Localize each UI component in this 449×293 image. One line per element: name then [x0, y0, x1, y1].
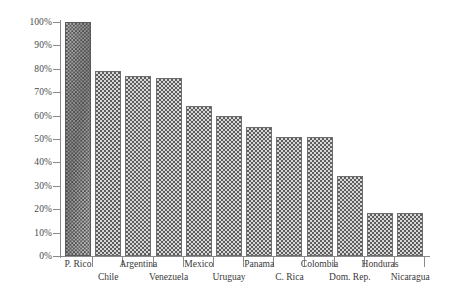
bar	[307, 137, 333, 256]
y-axis-tick-label: 70%	[0, 87, 52, 97]
y-axis-tick-mark	[53, 92, 61, 93]
bar	[397, 213, 423, 256]
x-axis-tick-label: Chile	[98, 272, 119, 283]
x-axis-line	[61, 256, 430, 257]
y-axis-tick-mark	[53, 139, 61, 140]
bar	[186, 106, 212, 256]
x-axis-tick-label: P. Rico	[65, 259, 92, 270]
bar	[156, 78, 182, 256]
x-axis-tick-label: Nicaragua	[391, 272, 430, 283]
bar	[65, 22, 91, 256]
x-axis-tick-label: Argentina	[119, 259, 157, 270]
y-axis-tick-label: 0%	[0, 251, 52, 261]
x-axis-tick-label: Panama	[244, 259, 274, 270]
y-axis-tick-label: 90%	[0, 40, 52, 50]
y-axis-tick-label: 20%	[0, 204, 52, 214]
y-axis-tick-mark	[53, 69, 61, 70]
y-axis-tick-label: 60%	[0, 111, 52, 121]
y-axis-tick-label: 30%	[0, 181, 52, 191]
y-axis-tick-label: 50%	[0, 134, 52, 144]
y-axis-tick-mark	[53, 162, 61, 163]
y-axis-tick-mark	[53, 116, 61, 117]
x-axis-tick-label: Mexico	[184, 259, 213, 270]
y-axis-tick-mark	[53, 256, 61, 257]
x-axis-tick-label: C. Rica	[275, 272, 304, 283]
y-axis-tick-label: 80%	[0, 64, 52, 74]
bar	[367, 213, 393, 256]
y-axis-tick-label: 40%	[0, 157, 52, 167]
x-axis-tick-label: Uruguay	[212, 272, 245, 283]
bar	[95, 71, 121, 256]
plot-area	[61, 22, 440, 256]
bar	[276, 137, 302, 256]
y-axis-tick-mark	[53, 22, 61, 23]
x-axis-tick-label: Dom. Rep.	[329, 272, 370, 283]
x-axis-separator	[424, 257, 425, 267]
y-axis-tick-mark	[53, 233, 61, 234]
y-axis-tick-label: 100%	[0, 17, 52, 27]
x-axis-tick-label: Venezuela	[149, 272, 188, 283]
bar-chart-figure: 100%90%80%70%60%50%40%30%20%10%0% P. Ric…	[0, 0, 449, 293]
y-axis-tick-mark	[53, 45, 61, 46]
bar	[125, 76, 151, 256]
x-axis-tick-label: Colombia	[301, 259, 338, 270]
y-axis-tick-mark	[53, 186, 61, 187]
bar	[216, 116, 242, 256]
y-axis-tick-label: 10%	[0, 228, 52, 238]
bar	[337, 176, 363, 256]
x-axis-tick-label: Honduras	[362, 259, 399, 270]
x-axis-separator	[92, 257, 93, 267]
bar	[246, 127, 272, 256]
y-axis-tick-mark	[53, 209, 61, 210]
